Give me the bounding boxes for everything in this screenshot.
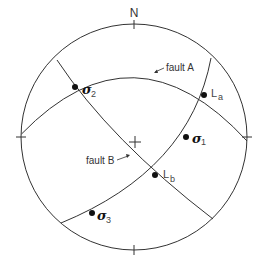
sigma-2-point bbox=[72, 84, 78, 90]
l-b-label: L b bbox=[163, 168, 175, 184]
svg-text:b: b bbox=[170, 174, 175, 184]
svg-text:3: 3 bbox=[106, 215, 111, 225]
sigma-1-label: σ 1 bbox=[192, 131, 206, 147]
sigma-3-point bbox=[89, 210, 95, 216]
svg-text:L: L bbox=[163, 168, 169, 180]
svg-text:1: 1 bbox=[201, 137, 206, 147]
l-b-point bbox=[152, 172, 158, 178]
fault-a-arrowhead-icon bbox=[154, 70, 158, 74]
stereonet-diagram: N fault A fault B σ 2 L a σ 1 L b σ 3 bbox=[0, 0, 266, 271]
primitive-circle bbox=[21, 24, 247, 250]
fault-a-label: fault A bbox=[166, 62, 194, 73]
sigma-1-point bbox=[183, 134, 189, 140]
fault-b-label: fault B bbox=[86, 155, 115, 166]
sigma-3-label: σ 3 bbox=[97, 208, 111, 225]
fault-b-arrowhead-icon bbox=[126, 154, 130, 158]
north-label: N bbox=[130, 6, 139, 20]
center-cross-icon bbox=[129, 136, 141, 148]
l-a-point bbox=[201, 92, 207, 98]
svg-text:2: 2 bbox=[91, 89, 96, 99]
svg-text:a: a bbox=[218, 92, 223, 102]
svg-text:L: L bbox=[211, 87, 217, 99]
fault-b-arrow-icon bbox=[117, 156, 128, 160]
l-a-label: L a bbox=[211, 87, 223, 102]
